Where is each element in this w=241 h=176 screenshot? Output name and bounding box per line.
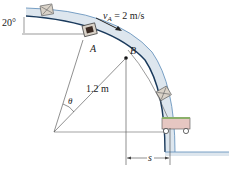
- radius-to-a: [54, 40, 83, 132]
- chute-track: [26, 8, 175, 152]
- floor: [165, 152, 229, 156]
- s-arrow-right: [165, 157, 169, 160]
- point-a-label: A: [89, 43, 97, 54]
- theta-label: θ: [68, 96, 73, 106]
- point-b-label: B: [130, 45, 136, 56]
- cart: [162, 117, 190, 134]
- physics-diagram: 20° vA = 2 m/s A B θ 1.2 m s: [0, 0, 241, 176]
- radius-label: 1.2 m: [86, 83, 109, 94]
- svg-text:vA = 2 m/s: vA = 2 m/s: [103, 10, 144, 23]
- velocity-value: = 2 m/s: [112, 10, 145, 21]
- angle-label: 20°: [2, 17, 16, 28]
- distance-label: s: [148, 152, 152, 163]
- crate-top: [40, 4, 54, 16]
- radius-to-b: [54, 59, 125, 132]
- diagram-canvas: 20° vA = 2 m/s A B θ 1.2 m s: [0, 0, 241, 176]
- s-arrow-left: [127, 157, 131, 160]
